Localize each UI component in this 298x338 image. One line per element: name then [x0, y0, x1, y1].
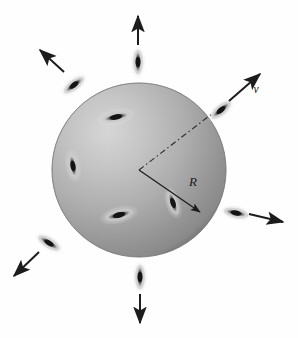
galaxy-on-surface [218, 202, 255, 225]
radius-label-R: R [188, 174, 197, 189]
cosmology-expanding-sphere-figure: R v [0, 0, 298, 338]
figure-canvas: R v [0, 0, 298, 338]
arrow-lower-left [14, 252, 39, 276]
galaxy-core [138, 272, 143, 283]
galaxy-on-surface [56, 68, 93, 102]
arrow-right [249, 214, 283, 222]
galaxy-on-surface [132, 260, 148, 294]
galaxy-on-surface [130, 45, 146, 79]
velocity-label-v: v [253, 83, 259, 95]
galaxy-core [136, 57, 141, 68]
arrow-upper-left [40, 50, 64, 72]
